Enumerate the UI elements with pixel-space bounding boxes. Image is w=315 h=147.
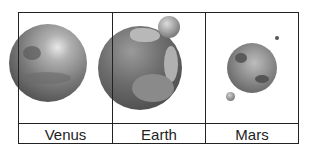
label-earth: Earth bbox=[113, 124, 205, 144]
label-venus: Venus bbox=[19, 124, 112, 144]
label-mars: Mars bbox=[206, 124, 298, 144]
planet-table: Venus Earth Mars bbox=[18, 12, 299, 144]
